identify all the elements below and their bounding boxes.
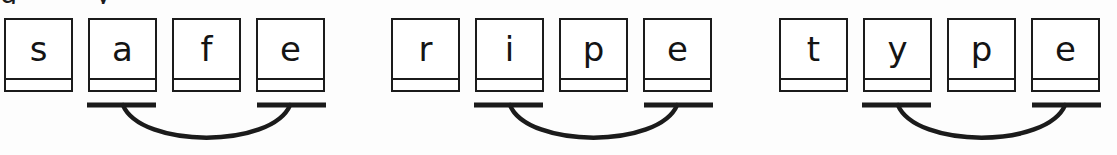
baseline-strip-divider <box>781 78 846 80</box>
letter-glyph: i <box>477 20 542 78</box>
letter-box[interactable]: p <box>947 18 1016 92</box>
silent-e-arc-marker <box>862 100 1101 140</box>
silent-e-arc-marker <box>87 100 326 140</box>
baseline-strip-divider <box>6 78 71 80</box>
letter-glyph: e <box>645 20 710 78</box>
letter-box[interactable]: s <box>4 18 73 92</box>
letter-box[interactable]: e <box>643 18 712 92</box>
baseline-strip-divider <box>393 78 458 80</box>
arc-curve <box>898 105 1065 138</box>
arc-curve <box>123 105 290 138</box>
letter-box[interactable]: y <box>863 18 932 92</box>
letter-box[interactable]: i <box>475 18 544 92</box>
letter-glyph: f <box>174 20 239 78</box>
baseline-strip-divider <box>645 78 710 80</box>
letter-box[interactable]: t <box>779 18 848 92</box>
baseline-strip-divider <box>90 78 155 80</box>
letter-box[interactable]: f <box>172 18 241 92</box>
baseline-strip-divider <box>865 78 930 80</box>
letter-box[interactable]: e <box>1031 18 1100 92</box>
silent-e-arc-marker <box>474 100 713 140</box>
baseline-strip-divider <box>561 78 626 80</box>
letter-box[interactable]: e <box>256 18 325 92</box>
cutoff-glyph-y: y <box>95 0 112 4</box>
letter-glyph: e <box>258 20 323 78</box>
letter-glyph: e <box>1033 20 1098 78</box>
baseline-strip-divider <box>174 78 239 80</box>
baseline-strip-divider <box>1033 78 1098 80</box>
cutoff-text-above: g y <box>0 0 1117 4</box>
letter-glyph: a <box>90 20 155 78</box>
letter-glyph: p <box>949 20 1014 78</box>
cutoff-glyph-g: g <box>0 0 18 4</box>
letter-box[interactable]: r <box>391 18 460 92</box>
letter-glyph: s <box>6 20 71 78</box>
letter-box[interactable]: p <box>559 18 628 92</box>
letter-glyph: p <box>561 20 626 78</box>
letter-glyph: y <box>865 20 930 78</box>
baseline-strip-divider <box>477 78 542 80</box>
letter-glyph: r <box>393 20 458 78</box>
baseline-strip-divider <box>258 78 323 80</box>
baseline-strip-divider <box>949 78 1014 80</box>
letter-glyph: t <box>781 20 846 78</box>
worksheet-page: g y saferipetype <box>0 0 1117 155</box>
letter-box[interactable]: a <box>88 18 157 92</box>
arc-curve <box>510 105 677 138</box>
